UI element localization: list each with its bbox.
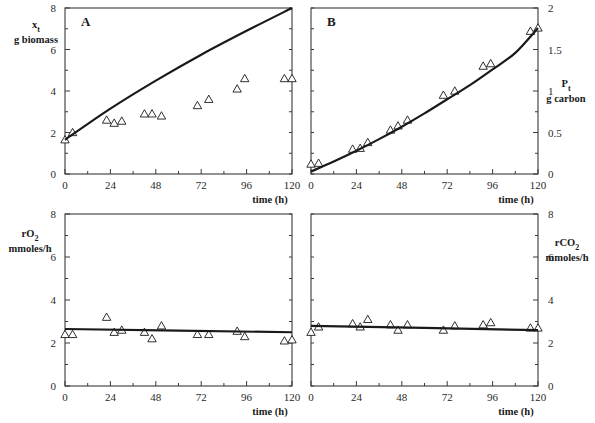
- panel-a-biomass: 02448729612002468time (h)xtg biomassA: [14, 2, 301, 206]
- data-point-triangle: [487, 59, 495, 66]
- model-curve: [311, 28, 538, 172]
- y-axis-unit: mmoles/h: [545, 252, 588, 263]
- x-tick-label: 24: [105, 179, 117, 191]
- x-tick-label: 96: [241, 391, 253, 403]
- plot-frame: [311, 8, 538, 174]
- x-axis-title: time (h): [498, 406, 534, 418]
- x-axis-title: time (h): [252, 194, 288, 206]
- y-tick-label: 8: [548, 208, 554, 220]
- data-point-triangle: [61, 330, 69, 337]
- x-tick-label: 72: [196, 391, 207, 403]
- data-point-triangle: [233, 85, 241, 92]
- data-point-triangle: [307, 160, 315, 167]
- x-tick-label: 72: [442, 179, 453, 191]
- x-tick-label: 72: [442, 391, 453, 403]
- y-tick-label: 2: [548, 2, 554, 14]
- x-tick-label: 96: [487, 179, 499, 191]
- y-tick-label: 2: [548, 337, 554, 349]
- y-axis-subscript: 2: [575, 243, 579, 252]
- x-tick-label: 120: [284, 179, 301, 191]
- y-axis-symbol: rO: [22, 228, 35, 239]
- x-tick-label: 0: [62, 179, 68, 191]
- data-point-triangle: [157, 112, 165, 119]
- y-axis-title: rCO2: [555, 237, 579, 252]
- data-point-triangle: [307, 328, 315, 335]
- model-curve: [311, 326, 538, 330]
- x-tick-label: 0: [308, 179, 314, 191]
- x-tick-label: 120: [530, 391, 547, 403]
- data-point-triangle: [241, 74, 249, 81]
- x-axis-title: time (h): [252, 406, 288, 418]
- data-point-triangle: [110, 119, 118, 126]
- data-point-triangle: [288, 74, 296, 81]
- data-point-triangle: [205, 95, 213, 102]
- data-point-triangle: [314, 159, 322, 166]
- y-tick-label: 2: [51, 127, 57, 139]
- panel-rco2: 02448729612002468time (h)rCO2mmoles/h: [307, 208, 589, 418]
- panel-ro2: 02448729612002468time (h)rO2mmoles/h: [8, 208, 300, 418]
- data-point-triangle: [102, 313, 110, 320]
- x-tick-label: 96: [487, 391, 499, 403]
- y-axis-unit: g biomass: [14, 34, 58, 45]
- y-tick-label: 4: [51, 294, 57, 306]
- x-tick-label: 48: [150, 179, 162, 191]
- x-tick-label: 48: [396, 391, 408, 403]
- data-point-triangle: [157, 322, 165, 329]
- data-point-triangle: [148, 110, 156, 117]
- data-point-triangle: [118, 117, 126, 124]
- y-axis-symbol: rCO: [555, 237, 575, 248]
- y-tick-label: 8: [51, 2, 57, 14]
- x-tick-label: 96: [241, 179, 253, 191]
- plot-frame: [311, 214, 538, 386]
- panel-letter: A: [81, 14, 91, 29]
- y-tick-label: 0.5: [548, 127, 562, 139]
- x-tick-label: 0: [62, 391, 68, 403]
- data-point-triangle: [288, 336, 296, 343]
- y-tick-label: 2: [51, 337, 57, 349]
- y-axis-title: rO2: [22, 228, 39, 243]
- model-curve: [65, 329, 292, 332]
- y-tick-label: 0: [548, 380, 554, 392]
- x-tick-label: 48: [150, 391, 162, 403]
- y-tick-label: 0: [51, 168, 57, 180]
- model-curve: [65, 8, 292, 140]
- y-tick-label: 0: [548, 168, 554, 180]
- data-point-triangle: [479, 62, 487, 69]
- x-tick-label: 48: [396, 179, 408, 191]
- y-tick-label: 4: [548, 294, 554, 306]
- data-point-triangle: [439, 91, 447, 98]
- x-tick-label: 72: [196, 179, 207, 191]
- panel-b-carbon: 02448729612000.511.52time (h)Ptg carbonB: [307, 2, 586, 206]
- data-point-triangle: [140, 110, 148, 117]
- data-point-triangle: [68, 330, 76, 337]
- x-tick-label: 24: [105, 391, 117, 403]
- y-tick-label: 1.5: [548, 44, 562, 56]
- data-point-triangle: [280, 74, 288, 81]
- y-axis-unit: g carbon: [546, 93, 586, 104]
- y-tick-label: 8: [51, 208, 57, 220]
- y-tick-label: 6: [51, 44, 57, 56]
- y-tick-label: 0: [51, 380, 57, 392]
- y-axis-subscript: t: [568, 84, 571, 93]
- data-point-triangle: [241, 332, 249, 339]
- data-point-triangle: [439, 326, 447, 333]
- x-tick-label: 120: [530, 179, 547, 191]
- y-axis-subscript: 2: [34, 234, 38, 243]
- data-point-triangle: [479, 321, 487, 328]
- data-point-triangle: [487, 318, 495, 325]
- y-axis-unit: mmoles/h: [8, 243, 51, 254]
- x-tick-label: 120: [284, 391, 301, 403]
- plot-frame: [65, 214, 292, 386]
- x-tick-label: 24: [351, 391, 363, 403]
- data-point-triangle: [364, 315, 372, 322]
- y-axis-title: xt: [32, 19, 40, 34]
- data-point-triangle: [102, 116, 110, 123]
- x-axis-title: time (h): [498, 194, 534, 206]
- figure-canvas: 02448729612002468time (h)xtg biomassA 02…: [0, 0, 595, 423]
- y-tick-label: 4: [51, 85, 57, 97]
- y-axis-title: Pt: [561, 78, 570, 93]
- panel-letter: B: [327, 14, 336, 29]
- x-tick-label: 0: [308, 391, 314, 403]
- data-point-triangle: [193, 101, 201, 108]
- y-axis-subscript: t: [37, 25, 40, 34]
